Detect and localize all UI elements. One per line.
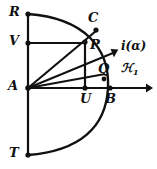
point-marker-p — [82, 39, 87, 44]
semicircle-arc — [28, 14, 108, 155]
axis-label-h1-subscript: 1 — [133, 67, 139, 77]
point-marker-t — [25, 152, 30, 157]
point-marker-v — [25, 40, 30, 45]
segment-a-q — [28, 74, 105, 88]
point-label-t: T — [9, 146, 19, 159]
point-marker-a — [25, 85, 31, 91]
point-marker-r — [25, 11, 30, 16]
point-label-b: B — [105, 92, 116, 105]
ray-label-i-alpha: i(α) — [121, 40, 146, 52]
point-marker-b — [107, 85, 112, 90]
axis-label-h1-base: ℋ — [121, 61, 133, 75]
point-label-u: U — [80, 92, 91, 105]
horizontal-axis-arrowhead — [146, 84, 153, 93]
figure-canvas — [0, 0, 157, 169]
point-label-q: Q — [98, 62, 109, 75]
point-label-v: V — [9, 34, 19, 47]
point-label-p: P — [90, 38, 100, 51]
point-marker-q — [102, 77, 107, 82]
geometry-figure: R V A T C P U Q B i(α) ℋ1 — [0, 0, 157, 169]
point-label-r: R — [9, 5, 20, 18]
point-marker-c — [93, 27, 98, 32]
ray-i-alpha-arrowhead — [111, 46, 121, 57]
point-marker-u — [82, 85, 87, 90]
point-label-a: A — [8, 79, 18, 92]
axis-label-h1: ℋ1 — [121, 62, 139, 76]
point-label-c: C — [88, 11, 98, 24]
